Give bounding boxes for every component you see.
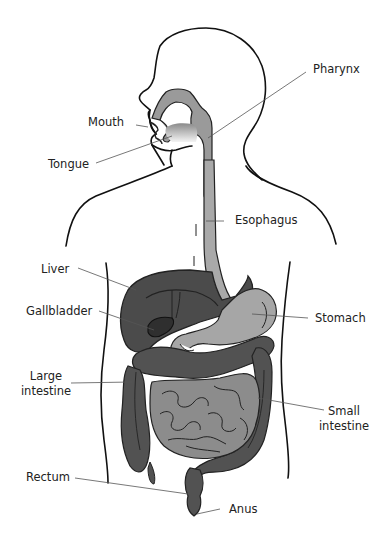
label-anus: Anus: [229, 502, 257, 517]
small-intestine-shape: [150, 374, 260, 459]
label-mouth: Mouth: [88, 115, 124, 130]
leader-mouth: [136, 125, 148, 127]
label-large-intestine: Large intestine: [18, 369, 74, 399]
leader-large-intestine: [71, 382, 132, 383]
label-rectum: Rectum: [26, 470, 70, 485]
pharynx-shape: [150, 89, 212, 199]
label-stomach: Stomach: [315, 311, 366, 326]
leader-pharynx: [208, 72, 306, 138]
label-liver: Liver: [41, 262, 69, 277]
leader-anus: [197, 509, 220, 514]
label-gallbladder: Gallbladder: [26, 304, 92, 319]
label-large-intestine-line2: intestine: [18, 384, 74, 399]
label-pharynx: Pharynx: [313, 62, 360, 77]
label-small-intestine-line2: intestine: [316, 419, 372, 434]
label-small-intestine: Small intestine: [316, 404, 372, 434]
label-small-intestine-line1: Small: [316, 404, 372, 419]
label-esophagus: Esophagus: [235, 213, 298, 228]
tongue-shape: [165, 123, 197, 142]
esophagus-detail: [194, 224, 196, 266]
leader-rectum: [75, 478, 188, 494]
label-tongue: Tongue: [48, 157, 89, 172]
label-large-intestine-line1: Large: [18, 369, 74, 384]
